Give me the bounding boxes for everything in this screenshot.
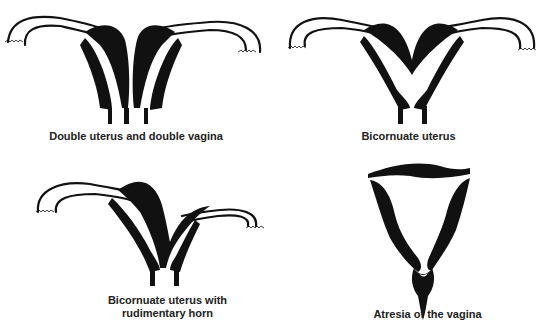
- panel-bicornuate-rudimentary-horn: Bicornuate uterus with rudimentary horn: [0, 160, 300, 327]
- caption-rudimentary-horn-line2: rudimentary horn: [0, 307, 335, 320]
- panel-atresia-vagina: Atresia of the vagina: [340, 160, 545, 327]
- caption-atresia-vagina: Atresia of the vagina: [340, 308, 515, 321]
- panel-bicornuate-uterus: Bicornuate uterus: [272, 0, 545, 160]
- caption-rudimentary-horn-line1: Bicornuate uterus with: [0, 294, 335, 307]
- caption-double-uterus: Double uterus and double vagina: [0, 130, 272, 143]
- caption-bicornuate-uterus: Bicornuate uterus: [272, 130, 545, 143]
- panel-double-uterus: Double uterus and double vagina: [0, 0, 272, 160]
- atresia-illustration: [340, 160, 545, 327]
